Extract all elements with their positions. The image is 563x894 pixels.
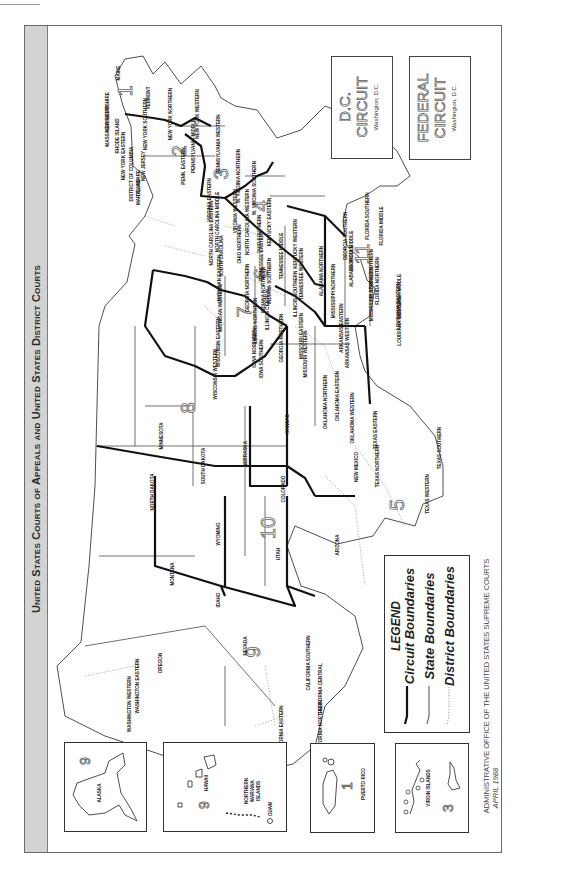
alaska-circuit-number: 9 <box>78 757 92 765</box>
legend-item-circuit: Circuit Boundaries <box>402 568 417 684</box>
label-nebraska: NEBRASKA <box>243 441 248 467</box>
inset-hawaii: HAWAII 9 NORTHERN MARIANA ISLANDS GUAM <box>163 742 287 832</box>
label-il-central: ILLINOIS CENTRAL <box>265 288 270 331</box>
legend-item-state: State Boundaries <box>422 573 437 680</box>
label-oh-northern: OHIO NORTHERN <box>237 224 242 263</box>
hawaii-circuit-number: 9 <box>197 801 211 809</box>
federal-circuit-title-1: FEDERAL <box>415 73 430 142</box>
label-wv-northern: W. VIRGINIA NORTHERN <box>236 149 241 203</box>
label-ky-eastern: KENTUCKY EASTERN <box>267 198 272 247</box>
label-tx-eastern: TEXAS EASTERN <box>373 411 378 450</box>
label-pa-middle: PENNSYLVANIA MIDDLE <box>191 119 196 173</box>
label-nc-western: NORTH CAROLINA WESTERN <box>245 189 250 255</box>
label-pa-eastern: PENN. EASTERN <box>181 147 186 184</box>
label-utah: UTAH <box>276 548 281 560</box>
label-ca-southern: CALIFORNIA SOUTHERN <box>306 635 311 690</box>
label-new-mexico: NEW MEXICO <box>354 452 359 482</box>
label-colorado: COLORADO <box>281 476 286 503</box>
label-nc-eastern: NORTH CAROLINA EASTERN <box>209 201 214 266</box>
federal-circuit-title-2: CIRCUIT <box>432 78 447 139</box>
top-rule <box>0 4 40 5</box>
virgin-islands-circuit-number: 3 <box>441 804 455 812</box>
label-ia-northern: IOWA NORTHERN <box>252 328 257 367</box>
label-ok-eastern: OKLAHOMA EASTERN <box>335 371 340 421</box>
label-wi-western: WISCONSIN WESTERN <box>213 349 218 400</box>
label-north-dakota: NORTH DAKOTA <box>150 474 155 511</box>
label-ny-northern: NEW YORK NORTHERN <box>168 88 173 141</box>
label-ok-northern: OKLAHOMA NORTHERN <box>323 375 328 429</box>
label-fl-southern: FLORIDA SOUTHERN <box>365 192 370 239</box>
label-kansas: KANSAS <box>285 414 290 433</box>
label-oregon: OREGON <box>158 653 163 673</box>
legend: LEGEND Circuit Boundaries State Boundari… <box>384 555 470 733</box>
label-fl-northern: FLORIDA NORTHERN <box>375 257 380 305</box>
label-idaho: IDAHO <box>216 593 221 608</box>
label-fl-middle: FLORIDA MIDDLE <box>379 206 384 245</box>
hawaii-label: HAWAII <box>204 775 209 791</box>
hawaii-shape <box>164 743 286 831</box>
inset-alaska: 9 ALASKA <box>64 742 147 832</box>
label-pa-western: PENNSYLVANIA WESTERN <box>216 114 221 173</box>
inset-puerto-rico: 1 PUERTO RICO <box>310 743 375 833</box>
label-tx-northern: TEXAS NORTHERN <box>375 445 380 488</box>
virgin-islands-shape <box>396 744 468 832</box>
federal-circuit-location: Washington, D.C. <box>451 85 457 132</box>
label-ia-southern: IOWA SOUTHERN <box>259 339 264 378</box>
label-ar-eastern: ARKANSAS EASTERN <box>339 303 344 352</box>
footnote-date: APRIL 1988 <box>491 768 500 808</box>
label-wa-western: WASHINGTON WESTERN <box>127 676 132 732</box>
label-ga-southern: GEORGIA SOUTHERN <box>343 212 348 261</box>
circuit-number-2: 2 <box>169 145 189 156</box>
label-al-middle: ALABAMA MIDDLE <box>349 245 354 287</box>
alaska-label: ALASKA <box>97 783 102 802</box>
circuit-number-3: 3 <box>211 168 231 179</box>
dc-circuit-title-2: CIRCUIT <box>354 77 369 138</box>
label-south-dakota: SOUTH DAKOTA <box>201 448 206 485</box>
legend-item-district: District Boundaries <box>442 566 457 686</box>
label-maine: MAINE <box>116 66 121 81</box>
label-massachusetts: MASSACHUSETTS <box>105 105 110 146</box>
label-ga-northern-2: GEORGIA NORTHERN <box>245 264 250 313</box>
footnote-office: ADMINISTRATIVE OFFICE OF THE UNITED STAT… <box>482 559 491 813</box>
label-la-western: LOUISIANA WESTERN <box>397 296 402 345</box>
puerto-rico-label: PUERTO RICO <box>361 768 366 800</box>
label-wyoming: WYOMING <box>216 523 221 546</box>
map-sheet: United States Courts of Appeals and Unit… <box>24 25 502 853</box>
puerto-rico-circuit-number: 1 <box>340 782 354 790</box>
federal-circuit-box: FEDERAL CIRCUIT Washington, D.C. <box>409 56 471 160</box>
guam-label: GUAM <box>268 802 273 816</box>
label-tx-southern: TEXAS SOUTHERN <box>437 427 442 469</box>
circuit-number-10: 10 <box>258 517 278 539</box>
label-ms-northern: MISSISSIPPI NORTHERN <box>331 264 336 319</box>
label-ms-southern: MISSISSIPPI SOUTHERN <box>369 267 374 321</box>
label-ar-western: ARKANSAS WESTERN <box>345 318 350 368</box>
label-wa-eastern: WASHINGTON EASTERN <box>135 659 140 714</box>
inset-virgin-islands: VIRGIN ISLANDS 3 <box>395 743 469 833</box>
virgin-islands-label: VIRGIN ISLANDS <box>426 769 431 806</box>
label-minnesota: MINNESOTA <box>159 422 164 449</box>
label-ky-western: KENTUCKY WESTERN <box>293 219 298 269</box>
label-arizona: ARIZONA <box>335 535 340 556</box>
circuit-number-1: 1 <box>115 85 135 96</box>
label-ga-northern: GEORGIA NORTHERN <box>279 314 284 363</box>
circuit-number-5: 5 <box>387 499 407 510</box>
label-montana: MONTANA <box>170 562 175 585</box>
label-nevada: NEVADA <box>243 636 248 655</box>
label-tx-western: TEXAS WESTERN <box>425 474 430 514</box>
label-ny-southern: NEW YORK SOUTHERN <box>143 98 148 150</box>
label-il-southern: ILLINOIS SOUTHERN <box>293 271 298 317</box>
label-maryland: MARYLAND <box>136 179 141 205</box>
label-ny-eastern: NEW YORK EASTERN <box>121 132 126 180</box>
label-al-northern: ALABAMA NORTHERN <box>319 246 324 296</box>
dc-circuit-title-1: D.C. <box>337 92 352 122</box>
circuit-number-8: 8 <box>178 402 198 413</box>
dc-circuit-box: D.C. CIRCUIT Washington, D.C. <box>331 56 393 159</box>
label-tn-middle: TENNESSEE MIDDLE <box>279 233 284 280</box>
label-district-of-columbia: DISTRICT OF COLUMBIA <box>129 147 134 202</box>
mariana-label: MARIANA <box>250 780 255 802</box>
label-mo-western: MISSOURI WESTERN <box>303 331 308 378</box>
label-new-jersey: NEW JERSEY <box>141 151 146 181</box>
label-wv-southern: W. VIRGINIA SOUTHERN <box>252 161 257 215</box>
northern-label: NORTHERN <box>244 778 249 804</box>
label-rhode-island: RHODE ISLAND <box>115 119 120 154</box>
